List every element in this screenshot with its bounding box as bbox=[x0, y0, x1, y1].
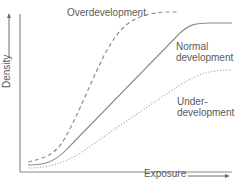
overdevelopment-curve bbox=[28, 12, 178, 162]
underdevelopment-label: Under- development bbox=[177, 96, 234, 118]
overdevelopment-label: Overdevelopment bbox=[67, 7, 146, 18]
x-arrow-head-icon bbox=[225, 174, 230, 178]
normal-development-label: Normal development bbox=[176, 41, 233, 63]
y-axis-label: Density bbox=[1, 55, 12, 88]
y-arrow-head-icon bbox=[7, 13, 11, 18]
x-axis-label: Exposure bbox=[144, 168, 186, 179]
density-exposure-chart bbox=[0, 0, 247, 184]
